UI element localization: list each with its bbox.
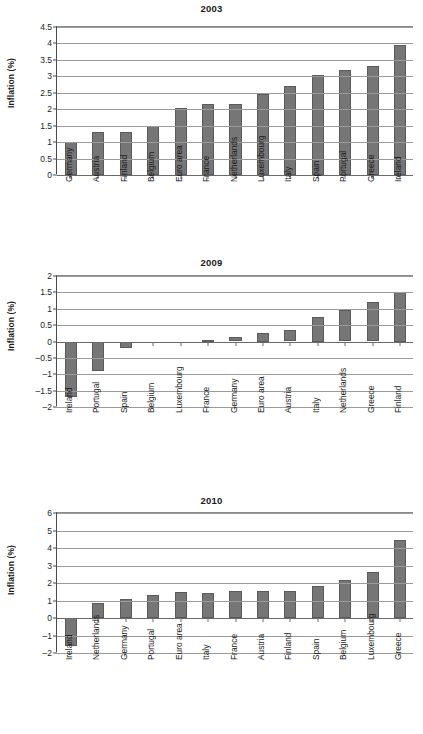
bar — [202, 593, 214, 618]
bar — [257, 591, 269, 618]
y-tick-label: 5 — [47, 526, 57, 536]
bar — [339, 580, 351, 618]
x-tick-label: Belgium — [146, 383, 156, 413]
chart-title-2010: 2010 — [0, 495, 423, 506]
x-tick-label: Italy — [283, 167, 293, 182]
bar — [312, 586, 324, 618]
x-tick-label: Spain — [311, 161, 321, 182]
gridline — [57, 109, 413, 110]
y-tick-label: 0.5 — [40, 320, 57, 330]
x-tick-label: Spain — [119, 392, 129, 413]
x-tick-label: Austria — [256, 634, 266, 660]
gridline — [57, 76, 413, 77]
y-tick-label: 0 — [47, 170, 57, 180]
y-tick-label: 0 — [47, 337, 57, 347]
bar — [284, 330, 296, 341]
gridline — [57, 93, 413, 94]
y-tick-label: –0.5 — [35, 353, 57, 363]
x-tick-label: Spain — [311, 639, 321, 660]
y-tick-label: 1.5 — [40, 121, 57, 131]
gridline — [57, 27, 413, 28]
y-tick-label: 4 — [47, 543, 57, 553]
bar — [229, 591, 241, 618]
gridline — [57, 583, 413, 584]
gridline — [57, 601, 413, 602]
x-tick-label: Luxembourg — [174, 366, 184, 413]
y-axis-label-2003: Inflation (%) — [6, 58, 16, 108]
x-tick-label: Euro area — [256, 376, 266, 413]
bar — [394, 292, 406, 341]
gridline — [57, 325, 413, 326]
x-tick-label: France — [201, 156, 211, 182]
bar — [147, 595, 159, 618]
x-tick-label: Ireland — [64, 387, 74, 413]
chart-2003: 2003 Inflation (%) 00.511.522.533.544.5 … — [0, 0, 423, 252]
x-tick-label: Finland — [393, 386, 403, 413]
y-tick-label: 1 — [47, 137, 57, 147]
gridline — [57, 309, 413, 310]
x-tick-label: Portugal — [91, 382, 101, 413]
plot-area-2010: –2–10123456 — [56, 512, 413, 652]
y-tick-label: 0.5 — [40, 154, 57, 164]
y-tick-label: 2.5 — [40, 88, 57, 98]
x-tick-label: Luxembourg — [366, 613, 376, 660]
gridline — [57, 548, 413, 549]
gridline — [57, 358, 413, 359]
x-tick-label: Greece — [366, 386, 376, 413]
x-tick-label: Austria — [283, 387, 293, 413]
x-tick-label: France — [201, 387, 211, 413]
y-tick-label: –2 — [43, 402, 57, 412]
chart-title-2009: 2009 — [0, 257, 423, 268]
gridline — [57, 374, 413, 375]
y-axis-label-2010: Inflation (%) — [6, 545, 16, 595]
y-tick-label: 4 — [47, 38, 57, 48]
bar — [367, 572, 379, 618]
bar — [394, 540, 406, 618]
chart-2009: 2009 Inflation (%) –2–1.5–1–0.500.511.52… — [0, 255, 423, 493]
gridline — [57, 342, 413, 343]
chart-title-2003: 2003 — [0, 3, 423, 14]
gridline — [57, 126, 413, 127]
y-tick-label: 0 — [47, 613, 57, 623]
gridline — [57, 566, 413, 567]
x-tick-label: Euro area — [174, 145, 184, 182]
x-tick-label: Greece — [393, 633, 403, 660]
gridline — [57, 618, 413, 619]
x-tick-label: Belgium — [338, 630, 348, 660]
chart-2010: 2010 Inflation (%) –2–10123456 IrelandNe… — [0, 493, 423, 734]
x-tick-label: Germany — [119, 626, 129, 660]
gridline — [57, 60, 413, 61]
y-tick-label: 1 — [47, 304, 57, 314]
x-tick-label: Greece — [366, 155, 376, 182]
y-tick-label: 1.5 — [40, 287, 57, 297]
y-tick-label: 3 — [47, 71, 57, 81]
y-tick-label: 6 — [47, 508, 57, 518]
bar — [120, 599, 132, 618]
y-tick-label: 2 — [47, 271, 57, 281]
gridline — [57, 292, 413, 293]
x-tick-label: Netherlands — [338, 368, 348, 413]
x-tick-label: Ireland — [393, 156, 403, 182]
bar — [312, 317, 324, 342]
x-tick-label: Finland — [283, 633, 293, 660]
y-tick-label: 3.5 — [40, 55, 57, 65]
x-tick-label: Italy — [311, 398, 321, 413]
y-axis-label-2009: Inflation (%) — [6, 301, 16, 351]
bar — [175, 592, 187, 618]
x-tick-label: Belgium — [146, 152, 156, 182]
y-tick-label: 2 — [47, 104, 57, 114]
x-tick-label: Euro area — [174, 623, 184, 660]
y-tick-label: –2 — [43, 648, 57, 658]
y-tick-label: 3 — [47, 561, 57, 571]
x-tick-label: Italy — [201, 645, 211, 660]
y-tick-label: 1 — [47, 596, 57, 606]
y-tick-label: 2 — [47, 578, 57, 588]
bar — [284, 86, 296, 175]
x-tick-label: Germany — [64, 148, 74, 182]
x-tick-label: Netherlands — [229, 137, 239, 182]
y-tick-label: –1.5 — [35, 386, 57, 396]
y-tick-label: 4.5 — [40, 22, 57, 32]
x-tick-label: Portugal — [146, 629, 156, 660]
x-tick-label: Austria — [91, 156, 101, 182]
bar — [284, 591, 296, 618]
